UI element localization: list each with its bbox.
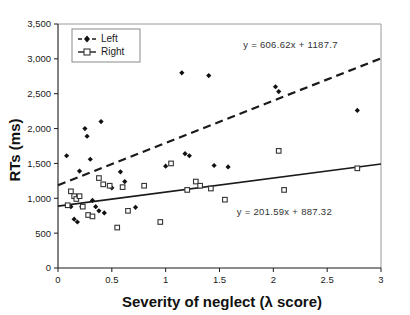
point-left [355,108,360,113]
y-axis-title: RTs (ms) [6,118,23,181]
point-right [198,183,203,188]
equation-left: y = 606.62x + 1187.7 [243,39,338,50]
point-left [98,119,103,124]
point-right [80,204,85,209]
point-left [82,126,87,131]
equation-right: y = 201.59x + 887.32 [237,206,332,217]
fit-line-left [58,58,381,185]
point-right [126,209,131,214]
x-tick-label: 2.5 [321,274,334,285]
series-left [64,70,360,224]
point-left [212,163,217,168]
point-right [355,166,360,171]
series-right [65,149,359,230]
point-left [122,179,127,184]
x-tick-label: 1.5 [213,274,226,285]
y-tick-label: 1,500 [27,158,51,169]
x-tick-label: 2 [271,274,276,285]
point-left [77,168,82,173]
legend: Left Right [72,29,140,62]
point-right [97,176,102,181]
fit-line-right [58,164,381,206]
point-right [115,225,120,230]
y-tick-label: 500 [35,228,51,239]
legend-label-right: Right [101,46,125,57]
point-right [276,149,281,154]
x-tick-label: 1 [163,274,168,285]
x-tick-label: 3 [378,274,383,285]
point-left [133,205,138,210]
y-tick-label: 2,000 [27,123,51,134]
point-left [179,70,184,75]
point-left [118,169,123,174]
point-left [187,153,192,158]
point-left [102,210,107,215]
x-axis-ticks: 00.511.522.53 [55,268,383,285]
x-tick-label: 0.5 [105,274,118,285]
point-right [169,161,174,166]
y-tick-label: 0 [46,262,51,273]
point-right [69,189,74,194]
x-tick-label: 0 [55,274,60,285]
point-left [163,164,168,169]
point-right [90,214,95,219]
legend-label-left: Left [101,33,118,44]
point-left [84,134,89,139]
point-right [158,220,163,225]
point-right [209,186,214,191]
y-tick-label: 1,000 [27,193,51,204]
figure-caption [4,308,406,315]
legend-marker-square [84,49,90,55]
point-right [142,183,147,188]
y-tick-label: 3,500 [27,18,51,29]
y-axis-ticks: 05001,0001,5002,0002,5003,0003,500 [27,18,58,273]
point-right [282,188,287,193]
point-left [64,153,69,158]
point-left [96,208,101,213]
point-right [101,182,106,187]
point-right [107,183,112,188]
scatter-plot: 05001,0001,5002,0002,5003,0003,500 00.51… [0,0,410,315]
point-right [223,197,228,202]
equation-annotations: y = 606.62x + 1187.7y = 201.59x + 887.32 [237,39,338,217]
point-right [120,185,125,190]
point-left [93,204,98,209]
point-left [226,164,231,169]
y-tick-label: 3,000 [27,53,51,64]
regression-lines [58,58,381,206]
point-left [88,157,93,162]
point-right [185,188,190,193]
point-left [206,73,211,78]
y-tick-label: 2,500 [27,88,51,99]
point-right [65,203,70,208]
point-left [182,151,187,156]
figure-container: 05001,0001,5002,0002,5003,0003,500 00.51… [0,0,410,315]
point-left [273,84,278,89]
point-right [77,194,82,199]
point-left [276,89,281,94]
